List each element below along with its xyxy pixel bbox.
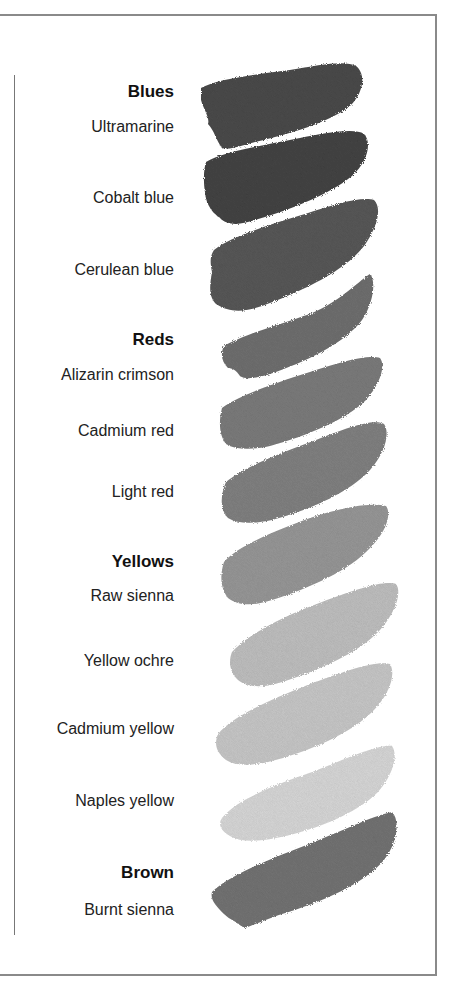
swatch-column <box>0 0 456 987</box>
